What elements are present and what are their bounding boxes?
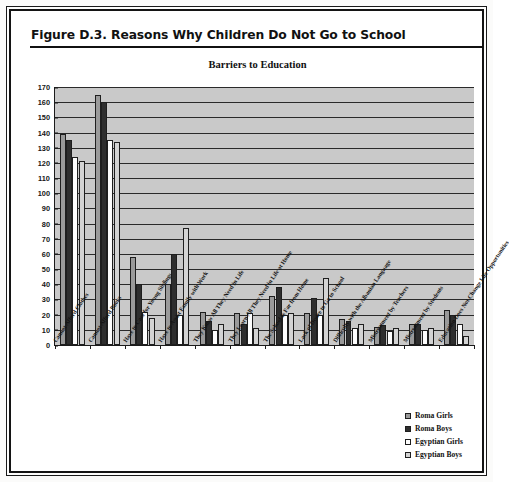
bar bbox=[171, 254, 177, 345]
bar bbox=[387, 331, 393, 345]
legend-item: Egyptian Boys bbox=[405, 448, 485, 461]
figure-caption: Figure D.3. Reasons Why Children Do Not … bbox=[31, 28, 481, 42]
y-axis-tick-label: 100 bbox=[38, 189, 55, 198]
x-axis-tick bbox=[195, 345, 196, 349]
legend-swatch-icon bbox=[405, 426, 411, 432]
bar bbox=[358, 324, 364, 345]
legend-item: Roma Girls bbox=[405, 409, 485, 422]
y-axis-tick-label: 140 bbox=[38, 128, 55, 137]
y-axis-tick-label: 40 bbox=[42, 280, 55, 289]
bar bbox=[218, 324, 224, 345]
bar bbox=[183, 228, 189, 345]
chart-legend: Roma GirlsRoma BoysEgyptian GirlsEgyptia… bbox=[405, 409, 485, 461]
x-axis-tick bbox=[299, 345, 300, 349]
y-axis-tick-label: 130 bbox=[38, 143, 55, 152]
x-axis-tick bbox=[369, 345, 370, 349]
plot-area: 0102030405060708090100110120130140150160… bbox=[54, 87, 474, 346]
plot-top-border bbox=[55, 87, 474, 88]
bar bbox=[212, 330, 218, 345]
y-axis-tick-label: 50 bbox=[42, 265, 55, 274]
y-axis-tick-label: 30 bbox=[42, 295, 55, 304]
bar bbox=[428, 328, 434, 345]
y-axis-tick-label: 110 bbox=[38, 174, 55, 183]
gridline bbox=[55, 117, 474, 118]
x-axis-tick bbox=[474, 345, 475, 349]
bar bbox=[79, 161, 85, 345]
x-axis-tick bbox=[90, 345, 91, 349]
x-axis-tick bbox=[439, 345, 440, 349]
y-axis-tick-label: 80 bbox=[42, 219, 55, 228]
y-axis-tick-label: 10 bbox=[42, 325, 55, 334]
legend-swatch-icon bbox=[405, 413, 411, 419]
legend-swatch-icon bbox=[405, 439, 411, 445]
legend-item-label: Roma Boys bbox=[415, 424, 452, 433]
bar bbox=[323, 278, 329, 345]
bar bbox=[149, 318, 155, 345]
bar bbox=[60, 134, 66, 345]
bar bbox=[463, 336, 469, 345]
bar bbox=[393, 328, 399, 345]
bar bbox=[288, 313, 294, 345]
legend-item: Egyptian Girls bbox=[405, 435, 485, 448]
bar bbox=[352, 328, 358, 345]
bar bbox=[101, 102, 107, 345]
x-axis-tick bbox=[404, 345, 405, 349]
bar bbox=[457, 324, 463, 345]
y-axis-tick-label: 20 bbox=[42, 310, 55, 319]
legend-item-label: Egyptian Girls bbox=[415, 437, 463, 446]
x-axis-tick bbox=[334, 345, 335, 349]
legend-item-label: Egyptian Boys bbox=[415, 450, 462, 459]
caption-divider bbox=[30, 46, 483, 48]
bar bbox=[114, 142, 120, 345]
bar bbox=[422, 330, 428, 345]
y-axis-tick-label: 120 bbox=[38, 158, 55, 167]
y-axis-tick-label: 60 bbox=[42, 249, 55, 258]
x-axis-tick bbox=[160, 345, 161, 349]
chart-title: Barriers to Education bbox=[11, 59, 504, 70]
page-border-inner: Figure D.3. Reasons Why Children Do Not … bbox=[9, 9, 484, 473]
x-axis-tick bbox=[55, 345, 56, 349]
bar bbox=[253, 328, 259, 345]
legend-item: Roma Boys bbox=[405, 422, 485, 435]
gridline bbox=[55, 133, 474, 134]
gridline bbox=[55, 102, 474, 103]
y-axis-tick-label: 70 bbox=[42, 234, 55, 243]
y-axis-tick-label: 90 bbox=[42, 204, 55, 213]
x-axis-tick bbox=[125, 345, 126, 349]
x-axis-tick bbox=[265, 345, 266, 349]
legend-item-label: Roma Girls bbox=[415, 411, 453, 420]
y-axis-tick-label: 170 bbox=[38, 83, 55, 92]
bar bbox=[95, 95, 101, 345]
x-axis-tick bbox=[230, 345, 231, 349]
y-axis-tick-label: 0 bbox=[46, 341, 55, 350]
legend-swatch-icon bbox=[405, 452, 411, 458]
y-axis-tick-label: 160 bbox=[38, 98, 55, 107]
y-axis-tick-label: 150 bbox=[38, 113, 55, 122]
